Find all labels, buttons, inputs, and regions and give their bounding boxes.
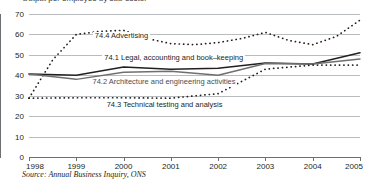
series-label: 74.2 Architecture and engineering activi… (90, 78, 237, 86)
series-label: 74.4 Advertising (93, 32, 150, 40)
chart-figure: Output per employee by sub-sector 010203… (0, 0, 369, 186)
source-note: Source: Annual Business Inquiry, ONS (22, 170, 146, 179)
series-label: 74.3 Technical testing and analysis (105, 101, 225, 109)
series-layer (0, 0, 369, 186)
series-label: 74.1 Legal, accounting and book–keeping (102, 54, 245, 62)
